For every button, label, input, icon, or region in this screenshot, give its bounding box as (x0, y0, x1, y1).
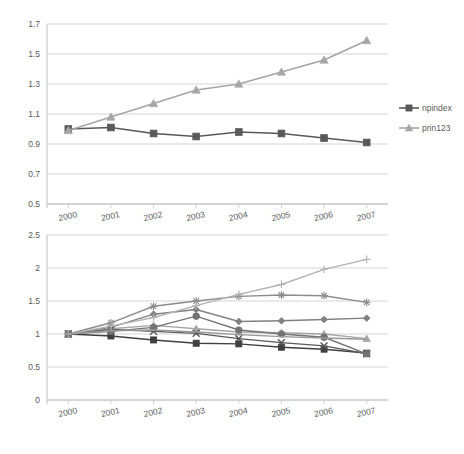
y-axis-tick-label: 0 (35, 395, 40, 405)
y-axis-tick-label: 2 (35, 263, 40, 273)
x-axis-tick-label: 2006 (313, 209, 334, 223)
y-axis-tick-label: 1 (35, 329, 40, 339)
legend-item-npindex[interactable]: npindex (398, 98, 452, 118)
x-axis-tick-label: 2007 (356, 405, 377, 419)
x-axis-tick-label: 2003 (185, 405, 206, 419)
x-axis-tick-label: 2002 (143, 209, 164, 223)
y-axis-tick-label: 0.7 (28, 169, 40, 179)
x-axis-tick-label: 2001 (100, 405, 121, 419)
x-axis-tick-label: 2005 (271, 405, 292, 419)
x-axis-tick-label: 2004 (228, 209, 249, 223)
y-axis-tick-label: 1.3 (28, 79, 40, 89)
y-axis-tick-label: 0.5 (28, 199, 40, 209)
y-axis-tick-label: 1.5 (28, 49, 40, 59)
x-axis-tick-label: 2000 (57, 405, 78, 419)
legend-marker-square-icon (398, 102, 420, 114)
legend-label: npindex (422, 104, 452, 113)
series-npindex (65, 124, 370, 146)
y-axis-tick-label: 0.5 (28, 362, 40, 372)
bottom-chart: 00.511.522.52000200120022003200420052006… (0, 227, 464, 454)
x-axis-tick-label: 2007 (356, 209, 377, 223)
x-axis-tick-label: 2005 (271, 209, 292, 223)
legend-marker-triangle-icon (398, 122, 420, 134)
bottom-chart-plot: 00.511.522.52000200120022003200420052006… (0, 227, 464, 454)
chart-page: 0.50.70.91.11.31.51.72000200120022003200… (0, 0, 464, 454)
y-axis-tick-label: 1.5 (28, 296, 40, 306)
y-axis-tick-label: 1.1 (28, 109, 40, 119)
top-chart: 0.50.70.91.11.31.51.72000200120022003200… (0, 0, 464, 227)
y-axis-tick-label: 1.7 (28, 19, 40, 29)
top-chart-plot: 0.50.70.91.11.31.51.72000200120022003200… (0, 0, 464, 227)
x-axis-tick-label: 2000 (57, 209, 78, 223)
legend-label: prin123 (422, 124, 450, 133)
x-axis-tick-label: 2003 (185, 209, 206, 223)
top-chart-legend: npindexprin123 (398, 98, 452, 138)
series-prin123 (64, 36, 371, 133)
legend-item-prin123[interactable]: prin123 (398, 118, 452, 138)
x-axis-tick-label: 2004 (228, 405, 249, 419)
x-axis-tick-label: 2001 (100, 209, 121, 223)
x-axis-tick-label: 2006 (313, 405, 334, 419)
y-axis-tick-label: 2.5 (28, 230, 40, 240)
x-axis-tick-label: 2002 (143, 405, 164, 419)
y-axis-tick-label: 0.9 (28, 139, 40, 149)
